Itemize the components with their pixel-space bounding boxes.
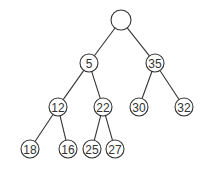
node-label: 32: [177, 101, 191, 115]
tree-edge-n35-n30: [142, 71, 152, 98]
tree-node-n32: 32: [175, 98, 193, 116]
tree-edge-n12-n16: [60, 116, 66, 140]
tree-node-n30: 30: [130, 98, 148, 116]
node-label: 35: [148, 57, 162, 71]
tree-node-n25: 25: [83, 140, 101, 158]
node-label: 27: [108, 143, 122, 157]
tree-nodes: 5351222303218162527: [21, 10, 193, 158]
tree-edge-n5-n22: [92, 72, 101, 99]
node-label: 30: [132, 101, 146, 115]
tree-edge-n35-n32: [160, 71, 179, 100]
tree-node-n35: 35: [146, 54, 164, 72]
tree-node-n22: 22: [94, 98, 112, 116]
tree-node-n16: 16: [59, 140, 77, 158]
node-circle: [111, 10, 131, 30]
node-label: 18: [23, 143, 37, 157]
tree-edge-n22-n25: [94, 116, 100, 141]
tree-edge-root-n35: [127, 28, 149, 56]
tree-node-n27: 27: [106, 140, 124, 158]
tree-edge-n12-n18: [35, 114, 53, 141]
node-label: 12: [51, 101, 65, 115]
tree-node-n12: 12: [49, 98, 67, 116]
node-label: 25: [85, 143, 99, 157]
tree-node-root: [111, 10, 131, 30]
tree-edge-root-n5: [94, 28, 115, 56]
tree-edges: [35, 28, 179, 142]
node-label: 5: [86, 57, 93, 71]
tree-node-n18: 18: [21, 140, 39, 158]
node-label: 16: [61, 143, 75, 157]
node-label: 22: [96, 101, 110, 115]
tree-node-n5: 5: [80, 54, 98, 72]
tree-edge-n22-n27: [105, 116, 112, 141]
tree-edge-n5-n12: [63, 70, 84, 99]
binary-tree-diagram: 5351222303218162527: [0, 0, 208, 169]
